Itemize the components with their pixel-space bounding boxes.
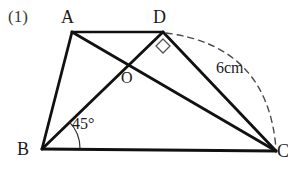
vertex-label-A: A xyxy=(61,8,74,26)
vertex-label-C: C xyxy=(277,142,288,160)
right-angle-marker-icon xyxy=(156,39,170,53)
segment-BC xyxy=(42,149,276,151)
geometry-figure-screenshot: (1) A D B C O 45° 6cm xyxy=(0,0,288,180)
vertex-label-O: O xyxy=(121,70,133,86)
vertex-label-B: B xyxy=(17,140,29,158)
angle-value-label: 45° xyxy=(72,116,94,132)
segment-AB xyxy=(42,32,72,149)
figure-canvas xyxy=(0,0,288,180)
problem-number-label: (1) xyxy=(8,8,28,25)
vertex-label-D: D xyxy=(153,8,166,26)
length-value-label: 6cm xyxy=(216,60,244,76)
